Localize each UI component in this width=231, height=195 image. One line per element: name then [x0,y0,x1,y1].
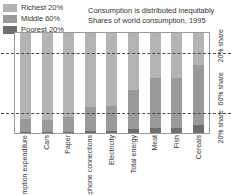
bar-segment [193,33,204,65]
bar-segment [128,129,139,133]
bar-segment [106,33,117,106]
legend-item-middle: Middle 60% [3,14,87,24]
share-label-text: 20% share [217,29,225,62]
bar-segment [150,78,161,128]
bar-segment [128,33,139,90]
bar-segment [171,128,182,133]
x-axis-label-text: Paper [64,135,72,154]
reference-line [1,113,231,114]
bar [42,33,53,133]
bar-segment [193,65,204,125]
x-axis-label: Fish [172,135,183,148]
bar-segment [42,33,53,120]
bar-segment [20,119,31,132]
bar-segment [63,33,74,117]
x-axis-label-text: Total consumption expenditure [21,135,29,195]
bar-segment [63,117,74,132]
x-axis-label-text: Electricity [108,135,116,165]
legend-label-richest: Richest 20% [21,4,63,12]
x-axis-label: Electricity [106,135,117,165]
x-axis-label-text: Total energy [130,135,138,173]
bar [128,33,139,133]
bar-segment [42,132,53,133]
legend-swatch-richest [3,4,17,12]
bar [150,33,161,133]
share-label-group: 20% share60% share20% share [210,32,231,134]
bar-segment [150,128,161,133]
x-axis-label-text: Telephone connections [86,135,94,195]
bar-segment [20,132,31,133]
legend-label-middle: Middle 60% [21,15,60,23]
bar-segment [171,33,182,78]
chart-title: Consumption is distributed inequitably [88,6,230,16]
x-axis-label-text: Meat [151,135,159,151]
x-axis-label: Cereals [194,135,205,159]
x-axis-label-text: Fish [173,135,181,148]
bar-segment [42,120,53,132]
bar-segment [20,33,31,119]
x-axis-label-group: Total consumption expenditureCarsPaperTe… [14,135,210,195]
share-label-text: 60% share [217,72,225,105]
x-axis-label: Cars [41,135,52,150]
chart-subtitle: Shares of world consumption, 1995 [88,16,230,26]
bar-segment [63,132,74,133]
x-axis-label: Total energy [128,135,139,173]
legend-item-richest: Richest 20% [3,3,87,13]
chart-title-block: Consumption is distributed inequitably S… [88,6,230,25]
bar-segment [85,33,96,107]
x-axis-label: Total consumption expenditure [19,135,30,195]
x-axis-label: Meat [150,135,161,151]
x-axis-label: Telephone connections [85,135,96,195]
x-axis-label: Paper [63,135,74,154]
legend-swatch-middle [3,15,17,23]
bar-segment [106,106,117,131]
bar-segment [193,125,204,133]
reference-line [1,53,231,54]
bar [193,33,204,133]
bar-segment [150,33,161,78]
bar-group [15,33,209,133]
bar [106,33,117,133]
bar-segment [85,107,96,131]
x-axis-label-text: Cars [43,135,51,150]
bar-segment [85,131,96,133]
bar-segment [128,90,139,129]
share-label-text: 20% share [217,110,225,143]
bar [85,33,96,133]
plot-area [14,32,210,134]
bar [63,33,74,133]
chart-figure: Richest 20% Middle 60% Poorest 20% Consu… [0,0,231,195]
bar-segment [171,78,182,128]
share-label: 20% share [210,32,231,59]
bar-segment [106,131,117,133]
share-label: 20% share [210,120,231,134]
x-axis-label-text: Cereals [195,135,203,159]
bar [171,33,182,133]
bar [20,33,31,133]
